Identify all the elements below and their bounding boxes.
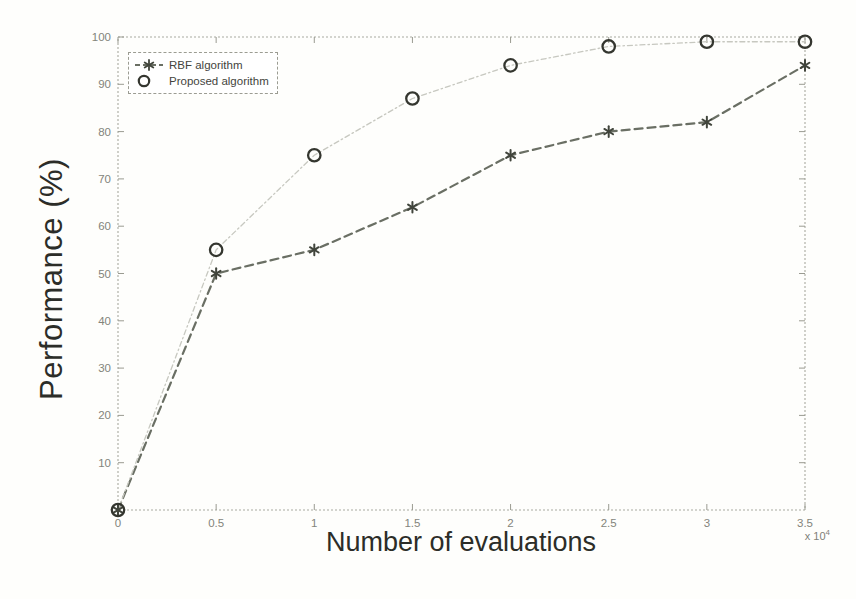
x-tick-label: 0.5 (208, 517, 224, 529)
x-axis-scale-exponent: 4 (826, 528, 830, 537)
legend-entry-rbf-algorithm: RBF algorithm (134, 57, 269, 73)
legend-label-proposed-algorithm: Proposed algorithm (169, 75, 269, 87)
x-tick-label: 3 (704, 517, 710, 529)
proposed-algorithm-marker (504, 59, 516, 71)
x-axis-title: Number of evaluations (241, 527, 681, 558)
y-tick-label: 10 (98, 457, 111, 469)
circle-marker-icon (134, 74, 164, 88)
y-tick-label: 30 (98, 362, 111, 374)
legend: RBF algorithm Proposed algorithm (128, 52, 278, 94)
y-tick-label: 70 (98, 173, 111, 185)
rbf-algorithm-marker (408, 202, 417, 213)
asterisk-marker-icon (134, 58, 164, 72)
rbf-algorithm-line (118, 65, 805, 510)
y-tick-label: 40 (98, 315, 111, 327)
legend-label-rbf-algorithm: RBF algorithm (169, 59, 243, 71)
y-tick-label: 20 (98, 409, 111, 421)
x-axis-scale-label: x 104 (805, 528, 830, 542)
y-tick-label: 60 (98, 220, 111, 232)
y-tick-label: 90 (98, 78, 111, 90)
x-axis-scale-prefix: x 10 (805, 530, 826, 542)
y-tick-label: 50 (98, 268, 111, 280)
legend-entry-proposed-algorithm: Proposed algorithm (134, 73, 269, 89)
y-tick-label: 80 (98, 126, 111, 138)
x-tick-label: 0 (115, 517, 121, 529)
axes-box (118, 37, 805, 510)
rbf-algorithm-marker (801, 60, 810, 71)
y-tick-label: 100 (92, 31, 111, 43)
rbf-algorithm-marker (212, 268, 221, 279)
rbf-algorithm-marker (114, 505, 123, 516)
y-axis-title: Performance (%) (31, 129, 73, 429)
figure: 10203040506070809010000.511.522.533.5 Pe… (0, 0, 856, 599)
